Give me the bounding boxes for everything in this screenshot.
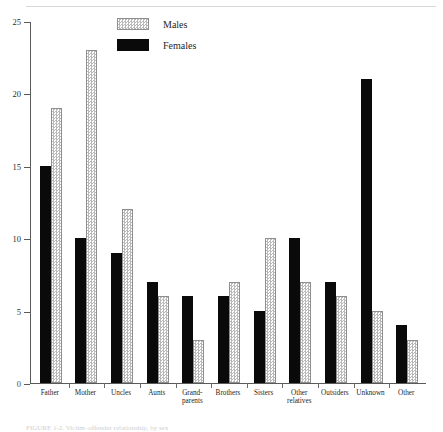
bar-males	[193, 340, 204, 383]
bar-group	[33, 22, 69, 383]
bar-group	[211, 22, 247, 383]
bar-males	[407, 340, 418, 383]
x-axis-tick	[282, 383, 283, 388]
figure-caption: FIGURE 1-2. Victim–offender relationship…	[26, 424, 168, 432]
bar-group	[318, 22, 354, 383]
bar-males	[51, 108, 62, 383]
bar-males	[372, 311, 383, 383]
chart-plot-area: 0510152025	[30, 22, 426, 384]
bar-series-container	[31, 22, 426, 383]
y-axis-tick-label: 20	[13, 90, 22, 99]
bar-females	[40, 166, 51, 383]
legend-label-females: Females	[163, 40, 196, 51]
x-axis-tick	[389, 383, 390, 388]
x-axis-tick	[176, 383, 177, 388]
bar-males	[86, 50, 97, 383]
legend-label-males: Males	[163, 19, 187, 30]
y-axis-tick	[24, 167, 30, 168]
bar-group	[389, 22, 425, 383]
y-axis-tick-label: 10	[13, 235, 22, 244]
x-axis-category-label: Other	[384, 389, 428, 397]
bar-group	[104, 22, 140, 383]
bar-females	[396, 325, 407, 383]
x-axis-tick	[211, 383, 212, 388]
legend-item-females: Females	[117, 37, 196, 53]
bar-females	[325, 282, 336, 383]
y-axis-tick-label: 15	[13, 163, 22, 172]
bar-males	[265, 238, 276, 383]
y-axis-tick	[24, 22, 30, 23]
y-axis-tick	[24, 94, 30, 95]
top-scan-rule	[26, 6, 436, 7]
bar-group	[282, 22, 318, 383]
x-axis-tick	[104, 383, 105, 388]
x-axis-tick	[318, 383, 319, 388]
bar-males	[300, 282, 311, 383]
legend-swatch-females	[117, 39, 149, 51]
bar-females	[111, 253, 122, 383]
bar-females	[182, 296, 193, 383]
y-axis-tick-label: 25	[13, 18, 22, 27]
y-axis-tick	[24, 312, 30, 313]
y-axis-tick-label: 5	[17, 307, 21, 316]
x-axis-line	[30, 383, 426, 384]
bar-group	[247, 22, 283, 383]
bar-males	[229, 282, 240, 383]
bar-females	[218, 296, 229, 383]
chart-legend: Males Females	[117, 16, 196, 58]
bar-females	[75, 238, 86, 383]
x-axis-tick	[247, 383, 248, 388]
bar-females	[254, 311, 265, 383]
bar-females	[147, 282, 158, 383]
bar-males	[336, 296, 347, 383]
x-axis-tick	[354, 383, 355, 388]
y-axis-tick-label: 0	[17, 380, 21, 389]
bar-group	[140, 22, 176, 383]
bar-group	[354, 22, 390, 383]
bar-group	[176, 22, 212, 383]
bar-females	[289, 238, 300, 383]
y-axis-tick	[24, 239, 30, 240]
legend-item-males: Males	[117, 16, 196, 32]
x-axis-tick	[140, 383, 141, 388]
bar-males	[158, 296, 169, 383]
legend-swatch-males	[117, 18, 149, 30]
y-axis-tick	[24, 384, 30, 385]
x-axis-tick	[69, 383, 70, 388]
bar-males	[122, 209, 133, 383]
bar-group	[69, 22, 105, 383]
bar-females	[361, 79, 372, 383]
